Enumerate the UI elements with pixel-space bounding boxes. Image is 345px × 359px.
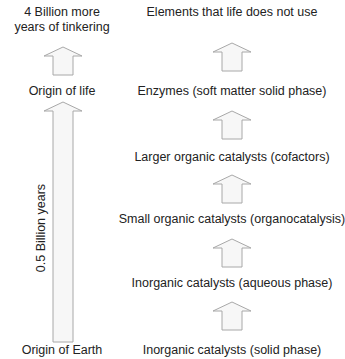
step-label-2: Larger organic catalysts (cofactors) [134,150,329,165]
step-label-5: Inorganic catalysts (solid phase) [143,343,322,358]
duration-label: 0.5 Billion years [34,184,48,272]
tinkering-label: 4 Billion more years of tinkering [14,5,109,35]
up-arrow-icon [212,238,252,268]
tall-up-arrow-icon [43,101,83,343]
step-label-4: Inorganic catalysts (aqueous phase) [132,276,333,291]
up-arrow-icon [212,174,252,204]
up-arrow-icon [43,46,83,76]
origin-of-earth-label: Origin of Earth [22,343,103,358]
step-label-0: Elements that life does not use [147,5,318,20]
tinkering-label-line1: 4 Billion more [14,5,109,20]
step-label-1: Enzymes (soft matter solid phase) [138,84,327,99]
step-label-3: Small organic catalysts (organocatalysis… [119,212,345,227]
tinkering-label-line2: years of tinkering [14,20,109,35]
origin-of-life-label: Origin of life [29,84,96,99]
up-arrow-icon [212,301,252,331]
up-arrow-icon [212,42,252,72]
up-arrow-icon [212,110,252,140]
